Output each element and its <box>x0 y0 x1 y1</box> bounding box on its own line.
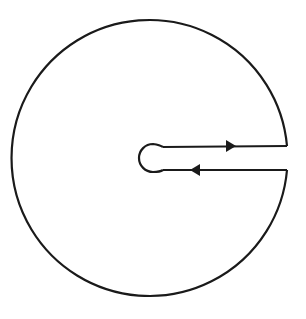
inner-arc <box>139 144 163 172</box>
arrow-left-icon <box>190 164 200 176</box>
keyhole-contour-diagram <box>0 0 306 319</box>
arrow-right-icon <box>226 140 236 152</box>
upper-cut-line <box>163 146 287 147</box>
outer-arc <box>12 20 287 296</box>
